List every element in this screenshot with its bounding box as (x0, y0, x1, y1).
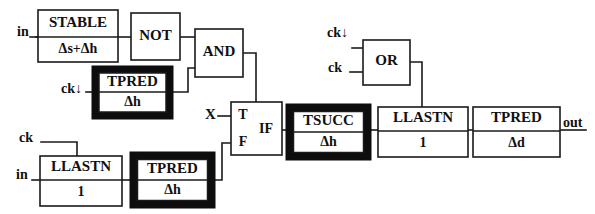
label-ck-down-left: ck↓ (61, 81, 82, 96)
block-if[interactable]: T F IF (231, 102, 282, 155)
block-tpred-bottom-name: TPRED (147, 160, 198, 176)
block-tpred-left-delay: Δh (124, 94, 141, 109)
block-if-name: IF (259, 121, 273, 136)
block-stable-name: STABLE (49, 14, 107, 30)
block-tsucc[interactable]: TSUCC Δh (289, 107, 368, 157)
block-tpred-bottom-delay: Δh (164, 182, 181, 197)
diagram-canvas: STABLE Δs+Δh NOT AND TPRED Δh LLASTN 1 (0, 0, 595, 214)
wire-ck-to-llastn-left (41, 142, 77, 156)
label-ck-left: ck (19, 130, 33, 145)
label-in-bottom: in (16, 167, 28, 182)
block-if-false-port-label: F (239, 134, 248, 149)
label-ck-right: ck (328, 60, 342, 75)
block-or-name: OR (375, 52, 398, 68)
wire-and-to-if (243, 53, 256, 102)
block-and-name: AND (203, 43, 236, 59)
block-llastn-right-delay: 1 (420, 135, 427, 150)
block-not[interactable]: NOT (131, 13, 180, 60)
block-tpred-right-delay: Δd (508, 135, 525, 150)
wire-tpred-left-to-and (170, 68, 195, 92)
block-tpred-bottom[interactable]: TPRED Δh (133, 155, 212, 205)
block-tpred-left[interactable]: TPRED Δh (95, 69, 170, 116)
label-ck-down-right: ck↓ (327, 25, 348, 40)
wire-or-to-llastn-right (410, 62, 422, 107)
block-llastn-left-delay: 1 (78, 184, 85, 199)
block-stable[interactable]: STABLE Δs+Δh (38, 10, 118, 62)
block-and[interactable]: AND (195, 29, 243, 77)
block-llastn-left[interactable]: LLASTN 1 (40, 156, 122, 206)
block-tpred-left-name: TPRED (107, 73, 158, 89)
block-or[interactable]: OR (363, 40, 410, 85)
block-llastn-right-name: LLASTN (393, 109, 453, 125)
block-tsucc-name: TSUCC (303, 112, 354, 128)
circuit-diagram: STABLE Δs+Δh NOT AND TPRED Δh LLASTN 1 (0, 0, 595, 214)
label-x-input: X (205, 106, 216, 122)
label-out: out (563, 115, 583, 130)
block-stable-delay: Δs+Δh (59, 41, 98, 56)
block-tsucc-delay: Δh (320, 134, 337, 149)
block-tpred-right[interactable]: TPRED Δd (473, 107, 560, 157)
block-llastn-left-name: LLASTN (51, 158, 111, 174)
block-llastn-right[interactable]: LLASTN 1 (378, 107, 468, 157)
block-not-name: NOT (139, 27, 172, 43)
block-if-true-port-label: T (238, 107, 248, 122)
block-tpred-right-name: TPRED (491, 109, 542, 125)
label-in-top: in (17, 24, 29, 39)
